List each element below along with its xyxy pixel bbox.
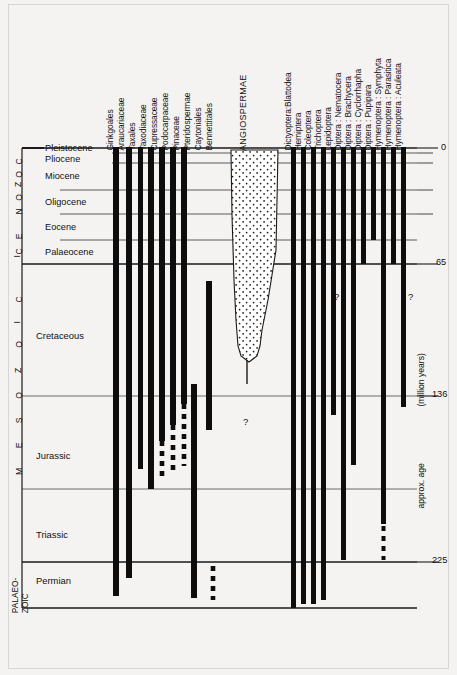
era-letter-cenozoic-e: E [15, 233, 24, 239]
range-bar-diptera-cyclorrhapha [361, 147, 366, 264]
epoch-label-palaeocene: Palaeocene [45, 248, 94, 257]
taxon-label-ginkgoales: Ginkgoales [106, 110, 114, 151]
taxon-label-angiospermae: ANGIOSPERMAE [239, 74, 248, 151]
era-letter-mesozoic-c: C [15, 296, 24, 302]
range-bar-hemiptera [301, 147, 306, 604]
taxon-label-coleoptera: Coleoptera [304, 110, 312, 150]
taxon-label-taxodiaceae: Taxodiaceae [139, 104, 147, 150]
taxon-label-hymenoptera-symphyta: Hymenoptera : Symphyta [374, 58, 382, 150]
taxon-label-pteridospermae: Pteridospermae [183, 93, 191, 151]
era-letter-mesozoic-m: M [15, 468, 24, 475]
era-letter-mesozoic-z: Z [14, 368, 23, 373]
range-bar-pinaceae [181, 147, 187, 404]
uncertainty-marker-angiospermae: ? [243, 417, 248, 427]
era-label-palaeozoic-line1: PALAEO- [12, 578, 20, 614]
range-bar-taxodiaceae [148, 147, 154, 489]
taxon-label-araucariaceae: Araucariaceae [117, 98, 125, 151]
range-bar-hymenoptera-symphyta [381, 147, 386, 524]
era-letter-cenozoic-o2: O [15, 171, 24, 178]
era-letter-mesozoic-o1: O [15, 392, 24, 399]
age-tick-136: 136 [432, 390, 447, 399]
taxon-label-hymenoptera-parasitica: Hymenoptera : Parasitica [384, 59, 392, 151]
age-tick-65: 65 [436, 258, 446, 267]
era-label-palaeozoic-line2: ZOIC [22, 593, 30, 613]
range-bar-hymenoptera-parasitica [391, 147, 396, 264]
taxon-label-podocarpaceae: Podocarpaceae [161, 93, 169, 150]
uncertainty-marker-diptera-cyclorrhapha: ? [334, 292, 339, 302]
epoch-label-pliocene: Pliocene [45, 155, 80, 164]
taxon-label-taxales: Taxales [128, 123, 136, 151]
taxon-label-caytoniales: Caytoniales [194, 108, 202, 151]
uncertainty-marker-hymenoptera-aculeata: ? [408, 292, 413, 302]
era-letter-mesozoic-i: I [13, 321, 22, 323]
era-letter-mesozoic-o2: O [15, 341, 24, 348]
taxon-label-dictyoptera-blattodea: Dictyoptera:Blattodea [284, 72, 292, 150]
range-bar-diptera-pupipara [371, 147, 376, 240]
era-letter-cenozoic-n: N [15, 208, 24, 214]
taxon-label-diptera-brachycera: Diptera : Brachycera [344, 76, 352, 150]
taxon-label-trichoptera: Trichoptera [314, 109, 322, 150]
range-bar-caytoniales-bennettitales [206, 281, 212, 430]
range-bar-pteridospermae [191, 384, 197, 598]
era-letter-mesozoic-s: S [15, 417, 24, 423]
range-bar-podocarpaceae [170, 147, 176, 425]
epoch-label-pleistocene: Pleistocene [45, 144, 93, 153]
taxon-label-diptera-pupipara: Diptera : Pupipara [364, 85, 372, 151]
range-bar-diptera-brachycera [351, 147, 356, 465]
age-tick-0: 0 [441, 143, 446, 152]
era-letter-cenozoic-z: Z [14, 182, 23, 187]
insect-range-bars [291, 147, 406, 608]
time-boundary-lines [22, 148, 417, 608]
age-tick-225: 225 [432, 556, 447, 565]
epoch-label-oligocene: Oligocene [45, 198, 86, 207]
era-letter-cenozoic-o1: O [15, 194, 24, 201]
period-label-triassic: Triassic [36, 530, 68, 539]
range-bar-cupressaceae [159, 147, 165, 441]
range-bar-ginkgoales [113, 147, 119, 596]
age-scale-unit-caption: (million years) [417, 353, 426, 406]
range-chart-figure: Ginkgoales Araucariaceae Taxales Taxodia… [0, 0, 457, 675]
angiospermae-wedge [231, 150, 278, 362]
epoch-label-miocene: Miocene [45, 172, 80, 181]
period-label-cretaceous: Cretaceous [36, 331, 84, 340]
taxon-label-diptera-cyclorrhapha: Diptera : Cyclorrhapha [354, 69, 362, 151]
range-bar-coleoptera [311, 147, 316, 604]
range-bar-diptera-nematocera [341, 147, 346, 560]
taxon-label-cupressaceae: Cupressaceae [150, 98, 158, 151]
range-bar-trichoptera [321, 147, 326, 600]
era-letter-cenozoic-c2: C [15, 248, 24, 254]
era-letter-mesozoic-e: E [15, 442, 24, 448]
taxon-label-lepidoptera: Lepidoptera [324, 107, 332, 150]
range-bar-dictyoptera-blattodea [291, 147, 296, 608]
range-bar-taxales [138, 147, 143, 469]
taxon-label-hemiptera: Hemiptera [294, 113, 302, 151]
range-bar-hymenoptera-aculeata [401, 147, 406, 407]
epoch-label-eocene: Eocene [45, 223, 76, 232]
era-letter-cenozoic-i: I [13, 255, 22, 257]
plant-range-bars [113, 147, 212, 598]
age-scale-title: approx. age [417, 463, 426, 508]
range-bar-lepidoptera [331, 147, 336, 415]
era-letter-cenozoic-c1: C [15, 158, 24, 164]
taxon-label-bennettitales: Bennettitales [205, 103, 213, 150]
taxon-label-diptera-nematocera: Diptera : Nematocera [334, 73, 342, 151]
range-bar-araucariaceae [126, 147, 132, 578]
period-label-jurassic: Jurassic [36, 451, 70, 460]
period-label-permian: Permian [36, 576, 71, 585]
taxon-label-pinaceae: Pinaceae [172, 116, 180, 150]
taxon-label-hymenoptera-aculeata: Hymenoptera : Aculeata [394, 63, 402, 150]
